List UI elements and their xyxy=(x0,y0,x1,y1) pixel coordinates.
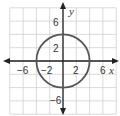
x-tick-label: −6 xyxy=(17,65,29,76)
coordinate-plane: −6 −2 2 6 x 6 2 −6 y xyxy=(0,0,120,116)
y-axis-up-arrow-icon xyxy=(60,2,66,9)
y-axis-label: y xyxy=(68,5,74,17)
x-axis-left-arrow-icon xyxy=(3,58,10,64)
x-tick-label: 6 xyxy=(100,65,106,76)
y-tick-label: −6 xyxy=(50,95,62,106)
x-tick-label: −2 xyxy=(41,65,53,76)
y-tick-label: 6 xyxy=(53,17,59,28)
y-tick-label: 2 xyxy=(53,43,59,54)
x-tick-label: 2 xyxy=(73,65,79,76)
x-axis xyxy=(3,58,119,64)
x-axis-label: x xyxy=(108,64,114,76)
